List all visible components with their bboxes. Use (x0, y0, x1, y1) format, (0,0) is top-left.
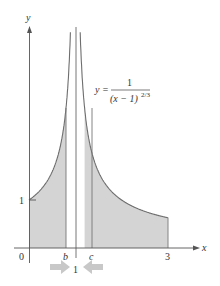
asymptote-label: 1 (73, 264, 78, 275)
approach-arrow-from-right-icon (83, 260, 103, 274)
equation-exponent: 2/3 (141, 91, 150, 99)
origin-label: 0 (19, 251, 24, 262)
y-axis-arrow-icon (27, 26, 32, 33)
y-axis-label: y (25, 12, 31, 23)
shaded-region-left (29, 108, 66, 248)
equation-denominator: (x − 1) (110, 93, 139, 105)
y-tick-label-1: 1 (19, 195, 24, 206)
shaded-region-right (85, 108, 168, 248)
function-equation: y = 1 (x − 1) 2/3 (94, 77, 150, 105)
approach-arrow-from-left-icon (50, 260, 70, 274)
x-tick-label-c: c (89, 251, 94, 262)
x-tick-label-3: 3 (165, 251, 170, 262)
equation-lhs: y = (94, 84, 109, 95)
x-tick-label-b: b (63, 251, 68, 262)
improper-integral-figure: y x 1 0 b c 3 1 y = 1 (x − 1) 2/3 (0, 0, 220, 286)
x-axis-arrow-icon (193, 246, 200, 251)
equation-numerator: 1 (127, 77, 132, 88)
x-axis-label: x (201, 242, 207, 253)
